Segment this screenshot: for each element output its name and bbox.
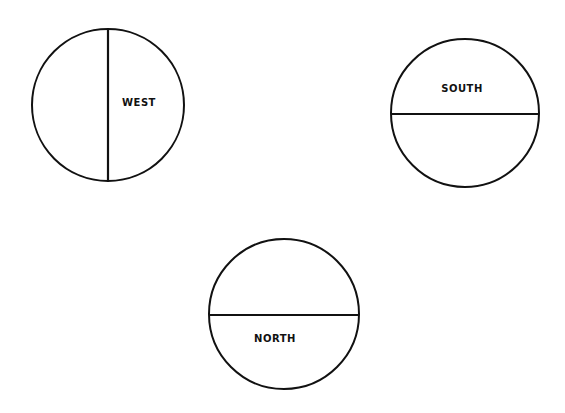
south-label: SOUTH <box>441 83 483 94</box>
west-circle-group: WEST <box>32 29 184 181</box>
west-label: WEST <box>122 97 156 108</box>
north-circle-group: NORTH <box>209 239 359 389</box>
diagram-canvas: WEST SOUTH NORTH <box>0 0 565 413</box>
north-label: NORTH <box>254 333 296 344</box>
south-circle-group: SOUTH <box>391 39 539 187</box>
